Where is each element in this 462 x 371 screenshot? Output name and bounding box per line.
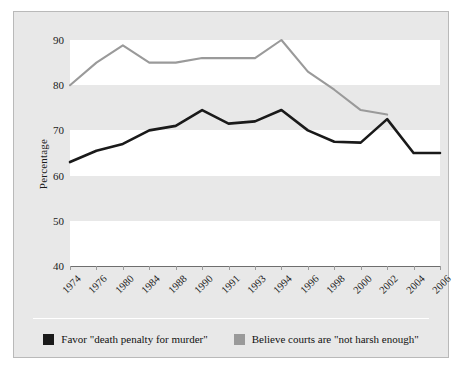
y-tick-label: 90 [24,35,64,46]
legend-item-favor-death-penalty: Favor "death penalty for murder" [43,333,207,345]
y-axis-title: Percentage [37,114,49,214]
x-tick-label: 1990 [192,273,215,296]
y-tick-label: 80 [24,80,64,91]
x-tick-label: 2002 [377,273,400,296]
x-tick-mark [334,266,335,270]
x-tick-label: 1988 [166,273,189,296]
x-tick-label: 1980 [113,273,136,296]
y-tick-label: 50 [24,216,64,227]
x-tick-label: 1998 [324,273,347,296]
legend-item-courts-not-harsh: Believe courts are "not harsh enough" [234,333,419,345]
x-tick-mark [440,266,441,270]
x-tick-label: 1991 [219,273,242,296]
x-tick-mark [149,266,150,270]
x-tick-mark [255,266,256,270]
x-tick-label: 1994 [272,273,295,296]
x-tick-label: 1996 [298,273,321,296]
legend-label: Believe courts are "not harsh enough" [252,333,419,345]
chart-legend: Favor "death penalty for murder" Believe… [33,330,429,348]
x-tick-mark [308,266,309,270]
series-lines [70,40,440,266]
plot-area [70,40,440,266]
x-tick-mark [123,266,124,270]
x-tick-mark [281,266,282,270]
x-tick-mark [229,266,230,270]
legend-swatch-dark [43,334,54,345]
series-line-courts-not-harsh [70,40,387,115]
x-tick-mark [361,266,362,270]
series-line-favor-death-penalty [70,110,440,162]
x-tick-mark [176,266,177,270]
legend-swatch-light [234,334,245,345]
x-tick-label: 1984 [139,273,162,296]
x-tick-mark [387,266,388,270]
x-tick-label: 2000 [351,273,374,296]
x-tick-mark [70,266,71,270]
legend-divider [33,318,429,319]
x-tick-mark [414,266,415,270]
x-tick-label: 1976 [87,273,110,296]
x-axis: 1974197619801984198819901991199319941996… [70,266,440,321]
legend-label: Favor "death penalty for murder" [61,333,207,345]
x-tick-mark [96,266,97,270]
y-axis: 90 80 70 60 50 40 Percentage [20,40,64,266]
y-tick-label: 40 [24,261,64,272]
x-tick-label: 2004 [404,273,427,296]
chart-figure: 90 80 70 60 50 40 Percentage 19741976198… [0,0,462,371]
x-tick-label: 1993 [245,273,268,296]
x-tick-mark [202,266,203,270]
